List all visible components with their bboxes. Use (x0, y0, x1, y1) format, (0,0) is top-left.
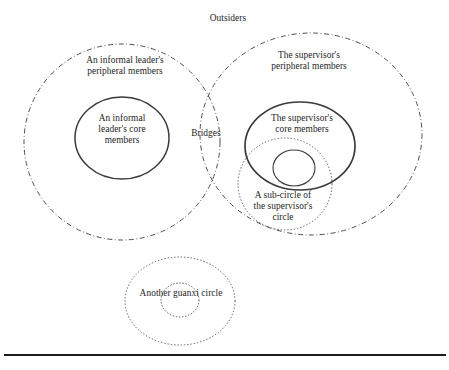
guanxi-circles-diagram: Outsiders An informal leader's periphera… (0, 0, 449, 370)
label-informal-leader-peripheral-members: An informal leader's peripheral members (55, 55, 195, 77)
label-supervisor-peripheral-members: The supervisor's peripheral members (245, 50, 373, 72)
label-bridges: Bridges (178, 128, 234, 139)
label-outsiders: Outsiders (168, 13, 288, 24)
label-supervisor-sub-circle: A sub-circle of the supervisor's circle (232, 190, 334, 223)
another-guanxi-outer-circle (125, 257, 235, 345)
label-supervisor-core-members: The supervisor's core members (252, 113, 352, 135)
supervisor-inner-small-circle (273, 150, 315, 186)
label-another-guanxi-circle: Another guanxi circle (124, 288, 238, 299)
label-informal-leader-core-members: An informal leader's core members (72, 113, 172, 146)
